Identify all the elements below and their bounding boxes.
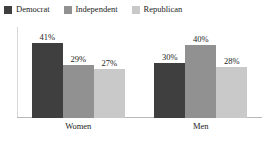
bar-group-women: 41% 29% 27% — [32, 27, 125, 118]
bar-men-independent[interactable]: 40% — [185, 27, 216, 118]
legend-swatch-icon — [64, 6, 72, 14]
category-label-men: Men — [154, 121, 247, 131]
bar-value-label: 40% — [193, 34, 209, 44]
bar-women-independent[interactable]: 29% — [63, 27, 94, 118]
legend-item-democrat[interactable]: Democrat — [4, 5, 50, 14]
bar-rect[interactable] — [185, 45, 216, 118]
bar-value-label: 29% — [70, 54, 86, 64]
legend-swatch-icon — [4, 6, 12, 14]
bar-rect[interactable] — [94, 69, 125, 118]
legend-label: Independent — [76, 5, 118, 14]
legend-swatch-icon — [132, 6, 140, 14]
bar-value-label: 30% — [162, 52, 178, 62]
legend-item-independent[interactable]: Independent — [64, 5, 118, 14]
chart-legend: Democrat Independent Republican — [4, 3, 196, 16]
legend-label: Republican — [144, 5, 183, 14]
bar-group-men: 30% 40% 28% — [154, 27, 247, 118]
legend-item-republican[interactable]: Republican — [132, 5, 183, 14]
category-label-women: Women — [32, 121, 125, 131]
bar-chart: Democrat Independent Republican 41% 29% … — [0, 0, 275, 146]
bar-value-label: 41% — [39, 32, 55, 42]
bar-rect[interactable] — [154, 63, 185, 118]
category-labels: Women Men — [17, 121, 262, 131]
bar-rect[interactable] — [63, 65, 94, 118]
bar-women-democrat[interactable]: 41% — [32, 27, 63, 118]
bar-value-label: 27% — [101, 58, 117, 68]
bar-rect[interactable] — [216, 67, 247, 118]
legend-label: Democrat — [16, 5, 50, 14]
bar-groups: 41% 29% 27% 30% 40% 28% — [17, 27, 262, 118]
bar-men-republican[interactable]: 28% — [216, 27, 247, 118]
bar-rect[interactable] — [32, 43, 63, 118]
bar-women-republican[interactable]: 27% — [94, 27, 125, 118]
bar-value-label: 28% — [224, 56, 240, 66]
bar-men-democrat[interactable]: 30% — [154, 27, 185, 118]
